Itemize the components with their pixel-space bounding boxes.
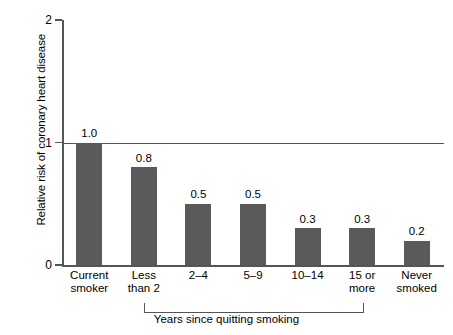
x-category-label: Less than 2 bbox=[117, 269, 172, 295]
bar bbox=[349, 228, 375, 265]
bar-value-label: 0.2 bbox=[409, 226, 425, 238]
x-axis-title: Years since quitting smoking bbox=[0, 314, 453, 326]
x-category-label: Never smoked bbox=[389, 269, 444, 295]
bar bbox=[185, 204, 211, 265]
bar-slot: 1.0 bbox=[62, 20, 117, 265]
x-category-label: 5–9 bbox=[226, 269, 281, 282]
x-category-label: Current smoker bbox=[62, 269, 117, 295]
bar-value-label: 0.8 bbox=[136, 153, 152, 165]
x-category-label: 10–14 bbox=[280, 269, 335, 282]
bar-slot: 0.5 bbox=[171, 20, 226, 265]
x-axis-line bbox=[62, 265, 444, 267]
plot-area: 1.00.80.50.50.30.30.2 bbox=[62, 20, 444, 265]
bar bbox=[131, 167, 157, 265]
bar-slot: 0.3 bbox=[280, 20, 335, 265]
bar bbox=[404, 241, 430, 266]
bar-slot: 0.8 bbox=[117, 20, 172, 265]
x-category-label: 2–4 bbox=[171, 269, 226, 282]
bar-slot: 0.3 bbox=[335, 20, 390, 265]
bar bbox=[76, 143, 102, 266]
group-bracket bbox=[144, 303, 364, 313]
y-axis-title: Relative risk of coronary heart disease bbox=[36, 5, 48, 255]
y-tick-label: 0 bbox=[8, 259, 52, 271]
bar-value-label: 1.0 bbox=[81, 128, 97, 140]
bar bbox=[295, 228, 321, 265]
bar-chart-figure: Relative risk of coronary heart disease … bbox=[0, 0, 453, 335]
bar bbox=[240, 204, 266, 265]
y-tick-mark bbox=[55, 142, 62, 144]
bar-value-label: 0.5 bbox=[190, 189, 206, 201]
bar-slot: 0.2 bbox=[389, 20, 444, 265]
bar-value-label: 0.3 bbox=[354, 214, 370, 226]
y-tick-mark bbox=[55, 264, 62, 266]
bar-value-label: 0.5 bbox=[245, 189, 261, 201]
y-tick-label: 1 bbox=[8, 137, 52, 149]
y-tick-label: 2 bbox=[8, 14, 52, 26]
y-tick-mark bbox=[55, 19, 62, 21]
x-category-label: 15 or more bbox=[335, 269, 390, 295]
bar-value-label: 0.3 bbox=[300, 214, 316, 226]
bar-slot: 0.5 bbox=[226, 20, 281, 265]
